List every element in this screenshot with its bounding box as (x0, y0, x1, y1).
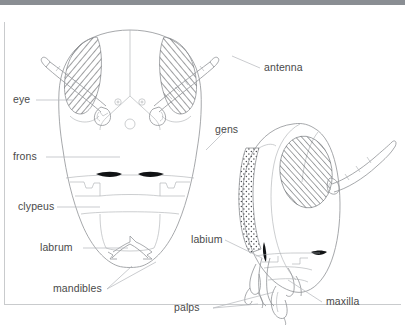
lateral-antenna (327, 141, 396, 194)
labrum-region (100, 214, 160, 251)
compound-eye-left (58, 32, 108, 122)
label-maxilla: maxilla (326, 296, 359, 307)
gena-stippled-region (236, 144, 276, 258)
figure-canvas: eye frons clypeus labrum mandibles anten… (0, 0, 405, 325)
label-gens: gens (215, 124, 238, 135)
leader-maxilla (288, 280, 322, 302)
label-clypeus: clypeus (18, 201, 54, 212)
label-labium: labium (191, 234, 223, 245)
leader-antenna (232, 56, 260, 68)
label-labrum: labrum (40, 242, 73, 253)
clypeus-region (66, 172, 194, 214)
label-frons: frons (13, 151, 37, 162)
label-antenna: antenna (264, 62, 303, 73)
label-eye: eye (13, 94, 30, 105)
diagram-artwork (0, 0, 405, 325)
leader-mandibles (107, 262, 156, 289)
mandibles (108, 236, 152, 259)
label-palps: palps (174, 302, 200, 313)
labium-structure (245, 264, 263, 308)
label-mandibles: mandibles (53, 283, 102, 294)
frons-region (100, 96, 160, 130)
